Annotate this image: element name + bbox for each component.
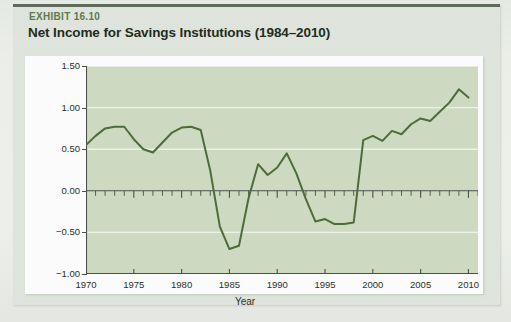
line-chart <box>86 66 478 274</box>
x-axis-tick-label: 1990 <box>257 279 297 290</box>
y-axis-tick-label: 0.00 <box>40 185 80 196</box>
y-axis-tick-label: 1.00 <box>40 102 80 113</box>
y-axis-tick-mark <box>82 232 87 233</box>
x-axis-tick-label: 2010 <box>448 279 488 290</box>
y-axis-tick-label: 1.50 <box>40 60 80 71</box>
x-axis-tick-label: 1995 <box>305 279 345 290</box>
y-axis-tick-mark <box>82 149 87 150</box>
x-axis-tick-label: 2000 <box>353 279 393 290</box>
x-axis-tick-label: 1985 <box>209 279 249 290</box>
page-title: Net Income for Savings Institutions (198… <box>28 25 330 40</box>
x-axis-tick-label: 2005 <box>401 279 441 290</box>
x-axis-label: Year <box>235 296 255 307</box>
y-axis-tick-mark <box>82 108 87 109</box>
y-axis-tick-mark <box>82 66 87 67</box>
y-axis-tick-label: 0.50 <box>40 143 80 154</box>
y-axis-tick-mark <box>82 191 87 192</box>
y-axis-tick-label: −1.00 <box>40 268 80 279</box>
top-rule-divider <box>13 4 500 7</box>
x-axis-tick-label: 1980 <box>162 279 202 290</box>
y-axis-tick-label: −0.50 <box>40 226 80 237</box>
page-background: EXHIBIT 16.10 Net Income for Savings Ins… <box>0 0 511 322</box>
x-axis-tick-label: 1970 <box>66 279 106 290</box>
y-axis-tick-mark <box>82 274 87 275</box>
exhibit-label: EXHIBIT 16.10 <box>29 11 100 22</box>
x-axis-tick-label: 1975 <box>114 279 154 290</box>
